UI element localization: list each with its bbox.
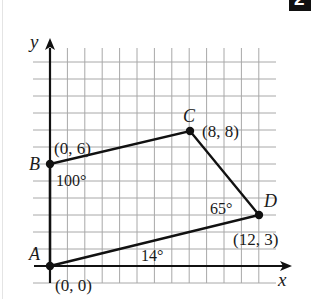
angle-b-label: 100° [56,172,86,189]
coordinate-diagram: x y A B C D (0, 0) (0, 6) (8, 8) (12, 3)… [0,0,311,299]
y-axis-label: y [28,31,39,52]
point-a [46,262,54,270]
point-a-coords: (0, 0) [55,276,92,295]
point-d-label: D [263,191,277,211]
point-b-coords: (0, 6) [54,139,91,158]
x-axis-label: x [277,269,287,290]
point-c-label: C [183,106,196,126]
point-c-coords: (8, 8) [202,122,239,141]
point-a-label: A [28,244,41,264]
angle-d-label: 65° [210,200,232,217]
point-d [255,211,263,219]
point-b [46,160,54,168]
angle-a-label: 14° [141,247,163,264]
point-b-label: B [29,154,40,174]
point-d-coords: (12, 3) [233,230,278,249]
point-c [186,127,194,135]
